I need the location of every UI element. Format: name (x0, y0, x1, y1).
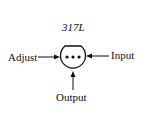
adjust-label: Adjust (8, 52, 37, 63)
pin-dot-right (77, 55, 80, 58)
input-label: Input (111, 50, 134, 61)
input-arrow-head (86, 54, 92, 59)
adjust-arrow-head (54, 55, 60, 60)
pin-dot-left (65, 55, 68, 58)
part-number-title: 317L (62, 22, 85, 33)
output-arrow-head (71, 71, 76, 77)
pin-dot-center (71, 55, 74, 58)
output-label: Output (56, 92, 87, 103)
